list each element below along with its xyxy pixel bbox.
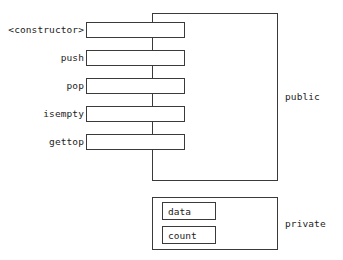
method-label-push: push bbox=[0, 50, 84, 66]
method-box-isempty[interactable] bbox=[86, 106, 185, 122]
method-box-push[interactable] bbox=[86, 50, 185, 66]
public-section-box bbox=[152, 13, 278, 181]
method-label-constructor: <constructor> bbox=[0, 22, 84, 38]
method-box-constructor[interactable] bbox=[86, 22, 185, 38]
field-label-count: count bbox=[168, 227, 197, 245]
method-box-gettop[interactable] bbox=[86, 134, 185, 150]
method-label-pop: pop bbox=[0, 78, 84, 94]
class-diagram-canvas: public <constructor> push pop isempty ge… bbox=[0, 0, 343, 260]
private-section-caption: private bbox=[285, 218, 326, 229]
public-section-caption: public bbox=[285, 91, 320, 102]
field-box-count[interactable]: count bbox=[162, 226, 216, 244]
field-box-data[interactable]: data bbox=[162, 202, 216, 220]
field-label-data: data bbox=[168, 203, 191, 221]
method-box-pop[interactable] bbox=[86, 78, 185, 94]
method-label-gettop: gettop bbox=[0, 134, 84, 150]
method-label-isempty: isempty bbox=[0, 106, 84, 122]
